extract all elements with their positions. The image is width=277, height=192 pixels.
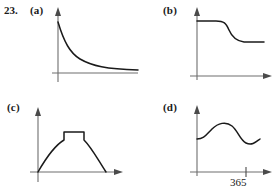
curve-exponential-decay-a	[58, 22, 138, 70]
x-axis-arrowhead-d	[263, 169, 272, 175]
x-axis-arrowhead-c	[114, 169, 123, 175]
panel-d-graph	[186, 104, 274, 184]
panel-b-graph	[186, 6, 274, 86]
page-number: 365	[230, 176, 247, 188]
figure-page: 23. (a) (b) (c)	[0, 0, 277, 192]
panel-b-svg	[186, 6, 274, 86]
panel-c-graph	[26, 104, 126, 186]
panel-a-svg	[50, 6, 140, 86]
curve-sigmoid-b	[197, 21, 264, 42]
panel-label-a: (a)	[30, 4, 43, 16]
problem-number: 23.	[4, 4, 18, 16]
panel-c-svg	[26, 104, 126, 186]
y-axis-arrowhead-d	[194, 105, 200, 114]
panel-d-svg	[186, 104, 274, 184]
curve-dome-plateau-c	[38, 132, 106, 172]
curve-sine-d	[197, 123, 260, 144]
x-axis-arrowhead-b	[263, 73, 272, 79]
panel-a-graph	[50, 6, 140, 86]
y-axis-arrowhead-a	[55, 7, 61, 16]
panel-label-d: (d)	[163, 101, 177, 113]
y-axis-arrowhead-c	[35, 107, 41, 116]
y-axis-arrowhead-b	[194, 7, 200, 16]
panel-label-b: (b)	[163, 4, 177, 16]
panel-label-c: (c)	[7, 101, 20, 113]
